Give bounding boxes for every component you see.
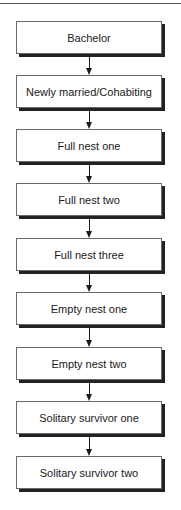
stage-label: Empty nest two [51,358,126,370]
down-arrow-icon [88,380,91,401]
stage-box-newly-married-cohabiting: Newly married/Cohabiting [16,75,162,108]
down-arrow-icon [88,325,91,347]
down-arrow-icon [88,108,91,129]
stage-box-full-nest-three: Full nest three [16,238,162,271]
stage-box-full-nest-one: Full nest one [16,129,162,162]
stage-label: Full nest one [58,140,121,152]
stage-box-empty-nest-two: Empty nest two [16,347,162,380]
stage-box-empty-nest-one: Empty nest one [16,292,162,325]
stage-label: Full nest three [54,249,124,261]
down-arrow-icon [88,216,91,238]
down-arrow-icon [88,271,91,292]
top-rule-divider [0,3,181,4]
stage-box-solitary-survivor-two: Solitary survivor two [16,456,162,489]
stage-box-bachelor: Bachelor [16,21,162,54]
stage-box-solitary-survivor-one: Solitary survivor one [16,401,162,434]
stage-label: Bachelor [67,32,110,44]
stage-box-full-nest-two: Full nest two [16,183,162,216]
stage-label: Newly married/Cohabiting [26,86,152,98]
down-arrow-icon [88,54,91,75]
stage-label: Solitary survivor two [40,467,138,479]
stage-label: Empty nest one [51,303,127,315]
stage-label: Solitary survivor one [39,412,139,424]
down-arrow-icon [88,434,91,456]
stage-label: Full nest two [58,194,120,206]
down-arrow-icon [88,162,91,183]
